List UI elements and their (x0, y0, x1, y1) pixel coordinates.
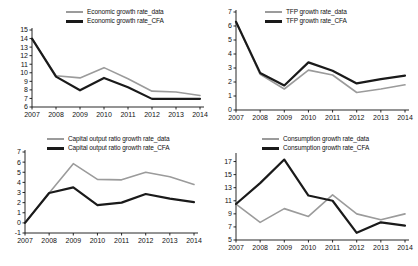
y-tick-label: 3 (17, 189, 21, 196)
y-tick-label: 4 (17, 179, 21, 186)
legend-entry-cfa: Capital output ratio growth rate_CFA (47, 144, 170, 152)
legend-swatch-cfa-icon (47, 147, 64, 150)
y-tick-label: 14 (20, 35, 28, 42)
x-tick-label: 2009 (72, 111, 88, 118)
legend-label-data: TFP growth rate_data (286, 8, 347, 16)
x-tick-label: 2011 (120, 111, 135, 118)
y-tick-label: 17 (224, 158, 232, 165)
legend-economic-growth-rate: Economic growth rate_data Economic growt… (66, 8, 164, 25)
panel-consumption-growth-rate: Consumption growth rate_data Consumption… (209, 133, 418, 266)
plot-consumption-growth-rate: 5791113151720072008200920102011201220132… (209, 133, 418, 266)
x-tick-label: 2010 (301, 244, 317, 251)
legend-entry-data: Economic growth rate_data (66, 8, 164, 16)
y-tick-label: 2 (17, 199, 21, 206)
y-tick-label: 6 (17, 159, 21, 166)
x-tick-label: 2011 (325, 244, 340, 251)
legend-tfp-growth-rate: TFP growth rate_data TFP growth rate_CFA (265, 8, 347, 25)
y-tick-label: 5 (228, 36, 232, 43)
y-tick-label: 15 (20, 26, 28, 33)
x-tick-label: 2007 (24, 111, 40, 118)
x-tick-label: 2007 (228, 244, 244, 251)
y-tick-label: 5 (228, 236, 232, 243)
y-tick-label: 3 (228, 64, 232, 71)
legend-capital-output-ratio-growth-rate: Capital output ratio growth rate_data Ca… (47, 135, 170, 152)
panel-tfp-growth-rate: TFP growth rate_data TFP growth rate_CFA… (209, 0, 418, 133)
legend-swatch-cfa-icon (265, 20, 282, 23)
x-tick-label: 2010 (90, 237, 106, 244)
legend-label-data: Capital output ratio growth rate_data (68, 135, 169, 143)
x-tick-label: 2008 (252, 244, 268, 251)
legend-entry-cfa: TFP growth rate_CFA (265, 17, 347, 25)
legend-label-cfa: Consumption growth rate_CFA (283, 144, 369, 152)
y-tick-label: 9 (228, 210, 232, 217)
y-tick-label: -1 (15, 229, 21, 236)
legend-entry-cfa: Consumption growth rate_CFA (262, 144, 369, 152)
y-tick-label: 8 (24, 86, 28, 93)
x-tick-label: 2008 (252, 114, 268, 121)
x-tick-label: 2014 (397, 114, 413, 121)
legend-label-cfa: Capital output ratio growth rate_CFA (68, 144, 170, 152)
legend-label-data: Consumption growth rate_data (283, 135, 369, 143)
x-tick-label: 2012 (138, 237, 154, 244)
x-tick-label: 2007 (228, 114, 244, 121)
x-tick-label: 2007 (17, 237, 33, 244)
legend-swatch-cfa-icon (66, 20, 83, 23)
legend-swatch-data-icon (262, 138, 279, 140)
x-tick-label: 2012 (349, 114, 365, 121)
y-tick-label: 11 (21, 61, 28, 68)
legend-swatch-data-icon (66, 11, 83, 13)
legend-entry-data: Capital output ratio growth rate_data (47, 135, 170, 143)
plot-capital-output-ratio-growth-rate: -101234567200720082009201020112012201320… (0, 133, 209, 266)
legend-label-cfa: TFP growth rate_CFA (286, 17, 347, 25)
y-tick-label: 9 (24, 78, 28, 85)
y-tick-label: 4 (228, 50, 232, 57)
panel-capital-output-ratio-growth-rate: Capital output ratio growth rate_data Ca… (0, 133, 209, 266)
x-tick-label: 2009 (276, 114, 292, 121)
y-tick-label: 1 (228, 92, 232, 99)
x-tick-label: 2012 (144, 111, 160, 118)
y-tick-label: 7 (228, 223, 232, 230)
legend-entry-data: Consumption growth rate_data (262, 135, 369, 143)
y-tick-label: 6 (228, 22, 232, 29)
x-tick-label: 2010 (96, 111, 112, 118)
legend-swatch-data-icon (265, 11, 282, 13)
y-tick-label: 2 (228, 78, 232, 85)
y-tick-label: 0 (17, 219, 21, 226)
series-line (32, 39, 200, 99)
x-tick-label: 2012 (349, 244, 365, 251)
x-tick-label: 2013 (168, 111, 184, 118)
panel-economic-growth-rate: Economic growth rate_data Economic growt… (0, 0, 209, 133)
x-tick-label: 2013 (162, 237, 178, 244)
legend-entry-cfa: Economic growth rate_CFA (66, 17, 164, 25)
y-tick-label: 11 (225, 197, 232, 204)
x-tick-label: 2014 (192, 111, 208, 118)
x-tick-label: 2008 (48, 111, 64, 118)
series-line (236, 22, 405, 93)
legend-swatch-data-icon (47, 138, 64, 140)
x-tick-label: 2014 (186, 237, 202, 244)
y-tick-label: 15 (224, 171, 232, 178)
x-tick-label: 2011 (114, 237, 129, 244)
legend-consumption-growth-rate: Consumption growth rate_data Consumption… (262, 135, 369, 152)
y-tick-label: 6 (24, 103, 28, 110)
legend-label-cfa: Economic growth rate_CFA (87, 17, 164, 25)
y-tick-label: 7 (17, 148, 21, 155)
y-tick-label: 13 (224, 184, 232, 191)
legend-swatch-cfa-icon (262, 147, 279, 150)
y-tick-label: 1 (17, 209, 21, 216)
y-tick-label: 10 (20, 69, 28, 76)
four-panel-chart-figure: Economic growth rate_data Economic growt… (0, 0, 418, 266)
y-tick-label: 5 (17, 169, 21, 176)
y-tick-label: 0 (228, 106, 232, 113)
x-tick-label: 2010 (301, 114, 317, 121)
x-tick-label: 2014 (397, 244, 413, 251)
y-tick-label: 13 (20, 44, 28, 51)
x-tick-label: 2013 (373, 114, 389, 121)
x-tick-label: 2011 (325, 114, 340, 121)
x-tick-label: 2009 (65, 237, 81, 244)
series-line (25, 187, 194, 222)
x-tick-label: 2008 (41, 237, 57, 244)
legend-entry-data: TFP growth rate_data (265, 8, 347, 16)
x-tick-label: 2009 (276, 244, 292, 251)
y-tick-label: 12 (20, 52, 28, 59)
